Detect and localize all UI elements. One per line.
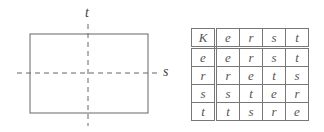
row-label: e — [192, 48, 216, 67]
row-label: s — [192, 85, 216, 103]
table-row: s s t e r — [192, 85, 309, 103]
header-cell: r — [240, 29, 263, 48]
header-cell: t — [286, 29, 309, 48]
table-cell: r — [286, 85, 309, 103]
table-cell: s — [240, 103, 263, 121]
table-cell: t — [216, 103, 240, 121]
table-cell: e — [216, 48, 240, 67]
header-cell: e — [216, 29, 240, 48]
table-cell: r — [263, 103, 286, 121]
table-cell: t — [263, 67, 286, 85]
table-cell: s — [216, 85, 240, 103]
table-cell: r — [216, 67, 240, 85]
axis-label-t: t — [85, 5, 89, 21]
table-cell: s — [286, 67, 309, 85]
table-cell: e — [263, 85, 286, 103]
klein-group-diagram: t s K e r s t e e r s t r r e t s s s t … — [0, 0, 324, 132]
table-row: t t s r e — [192, 103, 309, 121]
table-cell: t — [240, 85, 263, 103]
table-cell: e — [240, 67, 263, 85]
table-corner: K — [192, 29, 216, 48]
table-cell: e — [286, 103, 309, 121]
table-cell: t — [286, 48, 309, 67]
row-label: r — [192, 67, 216, 85]
axis-label-s: s — [163, 64, 168, 80]
table-row: e e r s t — [192, 48, 309, 67]
table-cell: r — [240, 48, 263, 67]
row-label: t — [192, 103, 216, 121]
cayley-table: K e r s t e e r s t r r e t s s s t e r — [191, 28, 309, 121]
table-row: r r e t s — [192, 67, 309, 85]
table-cell: s — [263, 48, 286, 67]
table-header-row: K e r s t — [192, 29, 309, 48]
header-cell: s — [263, 29, 286, 48]
